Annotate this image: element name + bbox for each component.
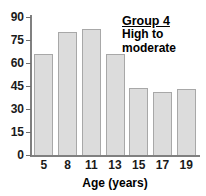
y-axis-tick-label: 30	[11, 103, 24, 115]
bar-slot	[32, 17, 56, 155]
bar	[34, 54, 53, 155]
y-axis-tick-mark	[26, 155, 31, 156]
chart-annotation: Group 4 High to moderate	[122, 14, 176, 56]
y-axis-tick-label: 45	[11, 80, 24, 92]
y-axis-tick-label: 60	[11, 57, 24, 69]
x-axis-tick-label: 11	[79, 159, 103, 171]
x-axis-tick-label: 19	[174, 159, 198, 171]
bar-slot	[174, 17, 198, 155]
y-axis-tick-label: 90	[11, 11, 24, 23]
x-axis-title: Age (years)	[31, 177, 199, 189]
annotation-subtitle-line-1: High to	[122, 28, 176, 42]
bar-slot	[79, 17, 103, 155]
x-axis-tick-label: 15	[127, 159, 151, 171]
bar-slot	[56, 17, 80, 155]
bar	[129, 88, 148, 155]
y-axis-tick-label: 0	[17, 149, 24, 161]
annotation-title: Group 4	[122, 14, 176, 28]
bar	[106, 54, 125, 155]
x-axis-tick-label: 13	[103, 159, 127, 171]
bar	[82, 29, 101, 155]
x-axis-tick-label: 5	[32, 159, 56, 171]
y-axis-tick-label: 15	[11, 126, 24, 138]
bar	[177, 89, 196, 155]
annotation-subtitle-line-2: moderate	[122, 42, 176, 56]
y-axis-tick-label: 75	[11, 34, 24, 46]
bar	[58, 32, 77, 155]
x-axis-tick-label: 17	[151, 159, 175, 171]
bar	[153, 92, 172, 155]
x-axis-tick-labels: 581113151719	[31, 159, 199, 171]
x-axis-tick-label: 8	[56, 159, 80, 171]
bar-chart: 0153045607590 581113151719 Age (years) G…	[0, 0, 206, 196]
x-axis-line	[30, 155, 200, 157]
